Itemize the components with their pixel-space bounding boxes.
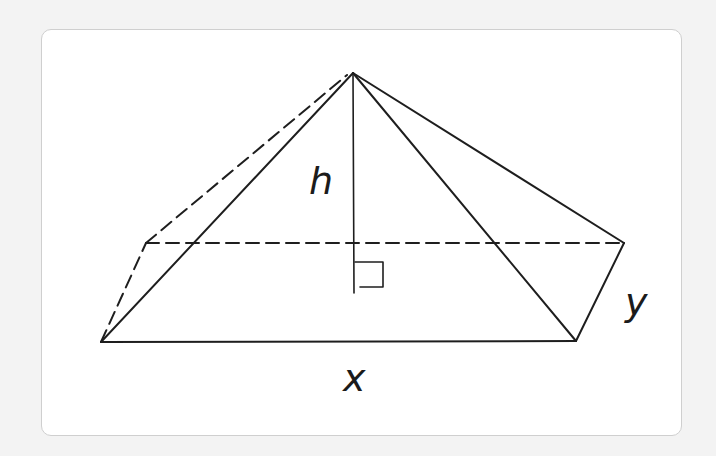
label-base-length: x: [343, 359, 366, 397]
edge-base-front: [101, 341, 576, 342]
edge-base-right: [576, 243, 624, 341]
label-height: h: [309, 162, 333, 200]
visible-edges: [101, 73, 624, 342]
label-base-width: y: [625, 283, 648, 321]
hidden-edges: [101, 75, 624, 342]
edge-apex-back-right: [353, 73, 624, 243]
height-line: [353, 73, 354, 293]
edge-apex-front-left: [101, 73, 353, 342]
right-angle-marker: [355, 262, 383, 287]
edge-apex-front-right: [353, 73, 576, 341]
hidden-edge-left-side: [101, 243, 146, 342]
